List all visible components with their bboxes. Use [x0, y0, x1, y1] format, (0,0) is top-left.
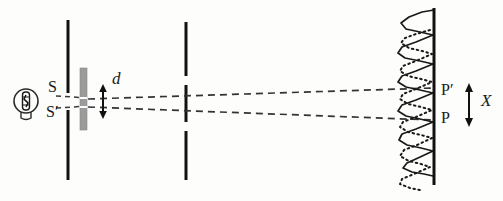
label-slit-separation: d — [112, 70, 121, 87]
label-source-lower: S′ — [46, 104, 58, 120]
label-source-upper: S — [48, 79, 57, 95]
diagram-canvas — [0, 0, 503, 201]
slit-separation-arrow — [99, 84, 107, 119]
label-screen-point-lower: P — [441, 110, 450, 126]
double-slit-plate — [80, 68, 87, 130]
light-source-bulb-icon — [14, 89, 38, 120]
fringe-spacing-arrow — [465, 83, 473, 127]
ray-lower — [88, 107, 432, 120]
ray-upper — [88, 88, 432, 99]
label-screen-point-upper: P′ — [441, 82, 453, 98]
label-fringe-spacing: X — [481, 92, 491, 109]
dashed-light-rays — [56, 88, 432, 120]
optics-diagram-figure: S S′ d P′ P X — [0, 0, 503, 201]
